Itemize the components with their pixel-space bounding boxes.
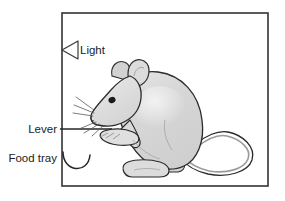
light-triangle-icon	[62, 41, 78, 59]
mouse-hind-foot-near	[123, 160, 169, 177]
light-label: Light	[80, 44, 106, 56]
skinner-box-figure: Light Lever Food tray	[0, 0, 285, 201]
food-tray-label: Food tray	[8, 152, 57, 164]
mouse-illustration	[73, 60, 253, 177]
food-tray-arc-icon	[63, 152, 90, 169]
lever-label: Lever	[28, 123, 57, 135]
figure-canvas: Light Lever Food tray	[0, 0, 285, 201]
